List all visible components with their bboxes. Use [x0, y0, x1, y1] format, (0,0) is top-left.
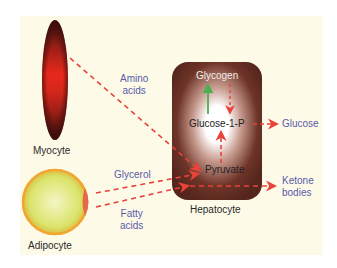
- adipocyte-label: Adipocyte: [28, 240, 72, 252]
- ketone-bodies-label: Ketone bodies: [282, 175, 314, 199]
- fatty-acids-label: Fatty acids: [120, 208, 143, 232]
- hepatocyte-cell: [172, 62, 262, 200]
- glucose-1-p-label: Glucose-1-P: [189, 118, 245, 130]
- pyruvate-label: Pyruvate: [205, 164, 244, 176]
- adipocyte-cell: [22, 169, 89, 235]
- glycerol-label: Glycerol: [114, 169, 151, 181]
- glycogen-label: Glycogen: [196, 70, 238, 82]
- myocyte-label: Myocyte: [33, 145, 70, 157]
- amino-acids-label: Amino acids: [120, 73, 148, 97]
- glucose-label: Glucose: [282, 118, 319, 130]
- myocyte-cell: [42, 20, 68, 140]
- hepatocyte-label: Hepatocyte: [190, 204, 241, 216]
- metabolism-diagram: [0, 0, 337, 268]
